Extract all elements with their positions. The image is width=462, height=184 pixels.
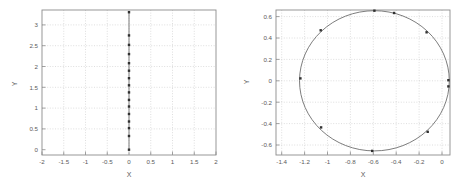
right-xticklabels: -1.4 -1.2 -1 -0.8 -0.6 -0.4 -0.2 0: [276, 158, 444, 165]
data-point: [128, 91, 130, 93]
data-point: [299, 77, 301, 79]
data-point: [128, 77, 130, 79]
left-plot-svg: -2 -1.5 -1 -0.5 0 0.5 1 1.5 2 0 0.5 1 1.…: [0, 0, 231, 184]
data-point: [371, 150, 373, 152]
data-point: [128, 44, 130, 46]
data-point: [128, 120, 130, 122]
ytick-label: 3: [35, 21, 39, 28]
data-point: [128, 11, 130, 13]
data-point: [128, 105, 130, 107]
xtick-label: -0.2: [414, 158, 425, 165]
ytick-label: 0: [269, 77, 273, 84]
xtick-label: -0.5: [102, 158, 113, 165]
ytick-label: 0.4: [263, 34, 272, 41]
right-xticks: [282, 152, 442, 156]
ytick-label: 0.6: [263, 13, 272, 20]
xtick-label: -1: [83, 158, 89, 165]
left-yticks: [42, 25, 46, 150]
right-grid-horizontal: [276, 17, 450, 145]
data-point: [447, 85, 449, 87]
ytick-label: 2: [35, 63, 39, 70]
ytick-label: -0.4: [261, 120, 272, 127]
right-yticklabels: -0.6 -0.4 -0.2 0 0.2 0.4 0.6: [261, 13, 272, 148]
data-point: [320, 126, 322, 128]
xtick-label: 1.5: [190, 158, 199, 165]
right-yaxis-label: Y: [243, 79, 250, 84]
data-point: [128, 84, 130, 86]
data-point: [128, 34, 130, 36]
left-yaxis-label: Y: [11, 81, 18, 86]
data-point: [373, 10, 375, 12]
right-xaxis-label: X: [361, 171, 366, 178]
plot-panel-left: -2 -1.5 -1 -0.5 0 0.5 1 1.5 2 0 0.5 1 1.…: [0, 0, 231, 184]
ytick-label: 0.2: [263, 56, 272, 63]
data-point: [128, 113, 130, 115]
data-point: [393, 12, 395, 14]
ytick-label: 1.5: [29, 84, 38, 91]
xtick-label: -0.8: [345, 158, 356, 165]
figure-container: -2 -1.5 -1 -0.5 0 0.5 1 1.5 2 0 0.5 1 1.…: [0, 0, 462, 184]
data-point: [427, 131, 429, 133]
xtick-label: -1.4: [276, 158, 287, 165]
xtick-label: 0: [440, 158, 444, 165]
right-grid-vertical: [282, 10, 442, 155]
xtick-label: 2: [214, 158, 218, 165]
data-point: [128, 99, 130, 101]
data-point: [320, 29, 322, 31]
xtick-label: -0.6: [368, 158, 379, 165]
left-yticklabels: 0 0.5 1 1.5 2 2.5 3: [29, 21, 38, 153]
ytick-label: -0.2: [261, 99, 272, 106]
ytick-label: 0.5: [29, 125, 38, 132]
data-point: [128, 135, 130, 137]
xtick-label: -1.2: [299, 158, 310, 165]
xtick-label: -1: [325, 158, 331, 165]
right-plot-svg: -1.4 -1.2 -1 -0.8 -0.6 -0.4 -0.2 0 -0.6 …: [231, 0, 462, 184]
xtick-label: -1.5: [58, 158, 69, 165]
ytick-label: 2.5: [29, 42, 38, 49]
plot-panel-right: -1.4 -1.2 -1 -0.8 -0.6 -0.4 -0.2 0 -0.6 …: [231, 0, 462, 184]
left-xticklabels: -2 -1.5 -1 -0.5 0 0.5 1 1.5 2: [39, 158, 218, 165]
data-point: [447, 79, 449, 81]
ytick-label: 1: [35, 104, 39, 111]
xtick-label: 1: [171, 158, 175, 165]
data-point: [128, 62, 130, 64]
ytick-label: 0: [35, 146, 39, 153]
left-xaxis-label: X: [127, 171, 132, 178]
data-point: [425, 31, 427, 33]
xtick-label: -0.4: [391, 158, 402, 165]
data-point: [128, 53, 130, 55]
data-point: [128, 149, 130, 151]
right-yticks: [276, 17, 280, 145]
left-xticks: [42, 152, 216, 156]
data-point: [128, 127, 130, 129]
xtick-label: 0.5: [146, 158, 155, 165]
data-point: [128, 70, 130, 72]
xtick-label: 0: [127, 158, 131, 165]
ytick-label: -0.6: [261, 141, 272, 148]
xtick-label: -2: [39, 158, 45, 165]
